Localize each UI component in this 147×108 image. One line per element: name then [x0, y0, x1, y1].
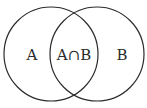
set-a-label: A: [26, 46, 38, 64]
set-b-label: B: [116, 46, 127, 64]
intersection-label: A∩B: [56, 46, 91, 64]
venn-diagram: A A∩B B: [0, 0, 147, 108]
